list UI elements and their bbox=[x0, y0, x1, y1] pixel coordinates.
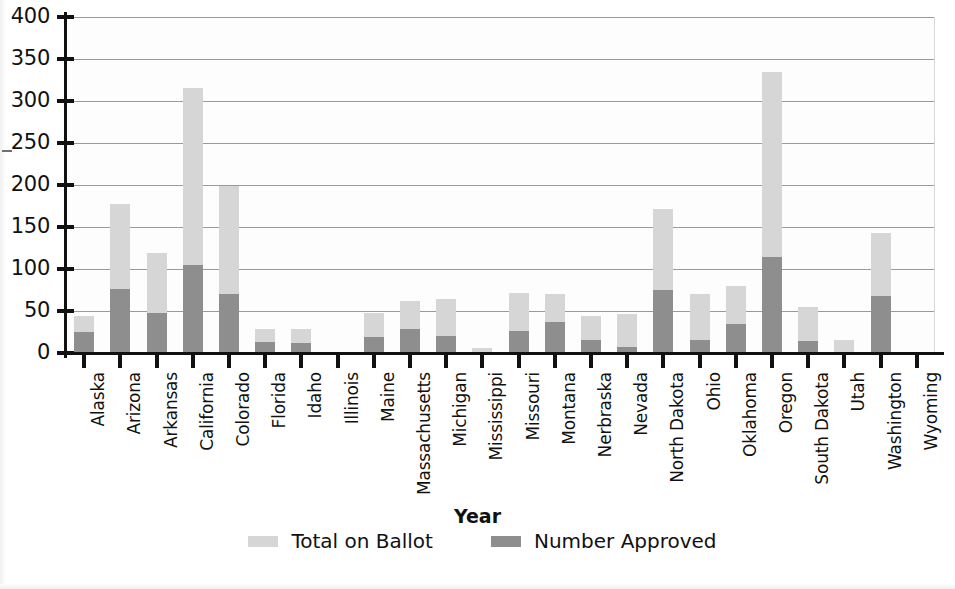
bar-number-approved bbox=[74, 332, 94, 353]
x-tick-florida bbox=[263, 353, 267, 368]
x-tick-oklahoma bbox=[734, 353, 738, 368]
legend-item-number-approved[interactable]: Number Approved bbox=[491, 531, 717, 551]
bar-number-approved bbox=[183, 265, 203, 353]
x-axis-label-montana: Montana bbox=[561, 372, 578, 445]
x-axis-label-colorado: Colorado bbox=[235, 372, 252, 446]
x-axis-label-oregon: Oregon bbox=[778, 372, 795, 433]
x-axis-label-nevada: Nevada bbox=[633, 372, 650, 436]
y-tick-250 bbox=[57, 141, 74, 145]
x-tick-wyoming bbox=[915, 353, 919, 368]
bar-number-approved bbox=[509, 331, 529, 353]
x-tick-massachusetts bbox=[408, 353, 412, 368]
y-tick-400 bbox=[57, 15, 74, 19]
x-tick-missouri bbox=[517, 353, 521, 368]
y-tick-label-0: 0 bbox=[0, 342, 50, 363]
legend: Total on Ballot Number Approved bbox=[0, 531, 955, 551]
legend-label-total-on-ballot: Total on Ballot bbox=[291, 531, 433, 551]
bar-number-approved bbox=[871, 296, 891, 353]
bar-number-approved bbox=[653, 290, 673, 353]
x-tick-illinois bbox=[336, 353, 340, 368]
plot-area bbox=[66, 17, 935, 353]
x-tick-maine bbox=[372, 353, 376, 368]
x-tick-nevada bbox=[625, 353, 629, 368]
x-axis-label-florida: Florida bbox=[271, 372, 288, 428]
x-tick-idaho bbox=[299, 353, 303, 368]
x-tick-michigan bbox=[444, 353, 448, 368]
x-tick-washington bbox=[879, 353, 883, 368]
x-axis-label-illinois: Illinois bbox=[344, 372, 361, 424]
x-axis-label-maine: Maine bbox=[380, 372, 397, 422]
y-tick-label-300: 300 bbox=[0, 90, 50, 111]
legend-swatch-icon-number-approved bbox=[491, 536, 521, 547]
gridline-350 bbox=[66, 59, 934, 60]
bar-number-approved bbox=[545, 322, 565, 353]
legend-swatch-icon-total-on-ballot bbox=[248, 536, 278, 547]
x-tick-ohio bbox=[698, 353, 702, 368]
x-axis-label-alaska: Alaska bbox=[90, 372, 107, 426]
x-axis-label-washington: Washington bbox=[887, 372, 904, 470]
x-tick-colorado bbox=[227, 353, 231, 368]
bar-number-approved bbox=[147, 313, 167, 353]
x-tick-montana bbox=[553, 353, 557, 368]
x-tick-nerbraska bbox=[589, 353, 593, 368]
x-axis-label-south-dakota: South Dakota bbox=[814, 372, 831, 485]
x-tick-california bbox=[191, 353, 195, 368]
x-axis-label-missouri: Missouri bbox=[525, 372, 542, 440]
x-axis-label-california: California bbox=[199, 372, 216, 451]
x-tick-arkansas bbox=[155, 353, 159, 368]
x-axis-label-michigan: Michigan bbox=[452, 372, 469, 447]
x-axis-title: Year bbox=[0, 505, 955, 527]
bar-number-approved bbox=[110, 289, 130, 353]
bar-number-approved bbox=[364, 337, 384, 353]
y-tick-label-250: 250 bbox=[0, 132, 50, 153]
x-axis-label-idaho: Idaho bbox=[307, 372, 324, 418]
legend-label-number-approved: Number Approved bbox=[534, 531, 717, 551]
page-edge-bottom bbox=[0, 584, 955, 589]
bar-number-approved bbox=[581, 340, 601, 353]
x-tick-utah bbox=[842, 353, 846, 368]
x-axis-label-utah: Utah bbox=[850, 372, 867, 412]
page-edge-left bbox=[0, 0, 6, 589]
y-tick-label-200: 200 bbox=[0, 174, 50, 195]
x-axis-label-massachusetts: Massachusetts bbox=[416, 372, 433, 495]
x-axis-label-arizona: Arizona bbox=[126, 372, 143, 434]
x-tick-mississippi bbox=[480, 353, 484, 368]
x-tick-alaska bbox=[82, 353, 86, 368]
bar-number-approved bbox=[726, 324, 746, 353]
y-tick-100 bbox=[57, 267, 74, 271]
x-axis-label-ohio: Ohio bbox=[706, 372, 723, 410]
y-tick-label-50: 50 bbox=[0, 300, 50, 321]
x-axis-label-wyoming: Wyoming bbox=[923, 372, 940, 450]
y-tick-0 bbox=[57, 351, 74, 355]
y-tick-50 bbox=[57, 309, 74, 313]
y-tick-200 bbox=[57, 183, 74, 187]
bar-number-approved bbox=[400, 329, 420, 353]
x-axis-label-arkansas: Arkansas bbox=[163, 372, 180, 448]
gridline-400 bbox=[66, 17, 934, 18]
y-tick-300 bbox=[57, 99, 74, 103]
y-tick-label-350: 350 bbox=[0, 48, 50, 69]
bar-number-approved bbox=[762, 257, 782, 353]
legend-item-total-on-ballot[interactable]: Total on Ballot bbox=[248, 531, 433, 551]
x-axis-line bbox=[64, 352, 944, 355]
x-axis-label-mississippi: Mississippi bbox=[488, 372, 505, 460]
x-axis-label-oklahoma: Oklahoma bbox=[742, 372, 759, 457]
x-tick-north-dakota bbox=[661, 353, 665, 368]
x-axis-label-north-dakota: North Dakota bbox=[669, 372, 686, 483]
y-tick-label-100: 100 bbox=[0, 258, 50, 279]
y-tick-350 bbox=[57, 57, 74, 61]
bar-number-approved bbox=[219, 294, 239, 353]
x-tick-oregon bbox=[770, 353, 774, 368]
x-axis-label-nerbraska: Nerbraska bbox=[597, 372, 614, 457]
bar-number-approved bbox=[436, 336, 456, 353]
x-tick-south-dakota bbox=[806, 353, 810, 368]
y-tick-label-400: 400 bbox=[0, 6, 50, 27]
x-tick-arizona bbox=[118, 353, 122, 368]
y-tick-150 bbox=[57, 225, 74, 229]
bar-chart: 400350300250200150100500 AlaskaArizonaAr… bbox=[0, 0, 955, 589]
y-tick-label-150: 150 bbox=[0, 216, 50, 237]
